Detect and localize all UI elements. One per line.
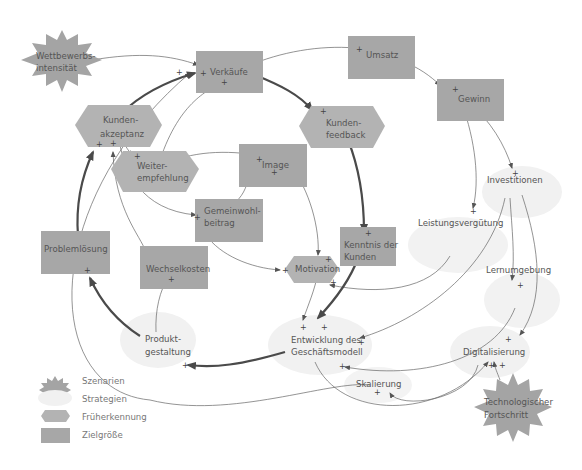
leistungsverguetung-label: Leistungsvergütung: [418, 218, 503, 228]
legend-label-szenarien: Szenarien: [82, 376, 125, 386]
investitionen-node[interactable]: [482, 166, 562, 218]
plus-mark: +: [168, 275, 175, 284]
weiterempfehlung-label-2: empfehlung: [137, 173, 189, 183]
plus-mark: +: [517, 281, 524, 290]
plus-mark: +: [221, 78, 228, 87]
plus-mark: +: [356, 45, 363, 54]
weiterempfehlung-label-1: Weiter-: [137, 161, 167, 171]
plus-mark: +: [110, 139, 117, 148]
weiterempfehlung-node[interactable]: [111, 151, 199, 192]
kenntnis-der-kunden-label-1: Kenntnis der: [344, 240, 399, 250]
plus-mark: +: [182, 361, 189, 370]
plus-mark: +: [176, 68, 183, 77]
plus-mark: +: [200, 69, 207, 78]
plus-mark: +: [488, 361, 495, 370]
gewinn-label: Gewinn: [458, 94, 490, 104]
problemloesung-label: Problemlösung: [44, 244, 108, 254]
produktgestaltung-label-1: Produkt-: [145, 334, 181, 344]
entwicklung-geschaeftsmodell-label-1: Entwicklung des: [291, 335, 362, 345]
legend-label-zielgroesse: Zielgröße: [82, 430, 123, 440]
legend-label-strategien: Strategien: [82, 394, 127, 404]
kundenakzeptanz-label-2: akzeptanz: [100, 129, 145, 139]
plus-mark: +: [321, 323, 328, 332]
legend-rectangle-icon: [41, 428, 70, 443]
plus-mark: +: [358, 338, 365, 347]
plus-mark: +: [325, 255, 332, 264]
plus-mark: +: [256, 155, 263, 164]
plus-mark: +: [330, 278, 337, 287]
technologischer-fortschritt-node[interactable]: [474, 373, 552, 442]
gemeinwohlbeitrag-label-1: Gemeinwohl-: [204, 206, 261, 216]
gemeinwohlbeitrag-label-2: beitrag: [204, 218, 235, 228]
wettbewerbsintensitaet-label-1: Wettbewerbs-: [36, 51, 96, 61]
legend: Szenarien Strategien Früherkennung Zielg…: [38, 376, 147, 443]
plus-mark: +: [452, 85, 459, 94]
entwicklung-geschaeftsmodell-label-2: Geschäftsmodell: [291, 347, 363, 357]
kundenakzeptanz-node[interactable]: [75, 105, 162, 147]
motivation-label: Motivation: [295, 264, 340, 274]
plus-mark: +: [512, 169, 519, 178]
plus-mark: +: [194, 213, 201, 222]
plus-mark: +: [271, 168, 278, 177]
umsatz-label: Umsatz: [366, 50, 399, 60]
plus-mark: +: [282, 266, 289, 275]
legend-hexagon-icon: [41, 410, 70, 422]
digitalisierung-label: Digitalisierung: [463, 347, 525, 357]
legend-label-frueherkennung: Früherkennung: [82, 412, 147, 422]
wettbewerbsintensitaet-node[interactable]: [21, 30, 102, 92]
legend-ellipse-icon: [38, 390, 72, 406]
plus-mark: +: [470, 207, 477, 216]
verkaeufe-label: Verkäufe: [210, 67, 248, 77]
technologischer-fortschritt-label-2: Fortschritt: [484, 410, 529, 420]
wechselkosten-label: Wechselkosten: [146, 264, 210, 274]
produktgestaltung-label-2: gestaltung: [145, 347, 191, 357]
lernumgebung-label: Lernumgebung: [486, 265, 551, 275]
causal-loop-diagram: Wettbewerbs- intensität Verkäufe Umsatz …: [0, 0, 582, 470]
plus-mark: +: [84, 266, 91, 275]
plus-mark: +: [300, 323, 307, 332]
plus-mark: +: [505, 335, 512, 344]
technologischer-fortschritt-label-1: Technologischer: [483, 397, 553, 407]
kundenakzeptanz-label-1: Kunden-: [103, 115, 138, 125]
plus-mark: +: [365, 229, 372, 238]
plus-mark: +: [374, 388, 381, 397]
kundenfeedback-label-1: Kunden-: [326, 118, 361, 128]
plus-mark: +: [339, 362, 346, 371]
plus-mark: +: [134, 152, 141, 161]
kundenfeedback-label-2: feedback: [326, 130, 366, 140]
plus-mark: +: [320, 107, 327, 116]
wettbewerbsintensitaet-label-2: intensität: [36, 63, 77, 73]
kenntnis-der-kunden-label-2: Kunden: [344, 252, 376, 262]
plus-mark: +: [499, 361, 506, 370]
entwicklung-geschaeftsmodell-node[interactable]: [268, 315, 372, 375]
plus-mark: +: [96, 140, 103, 149]
